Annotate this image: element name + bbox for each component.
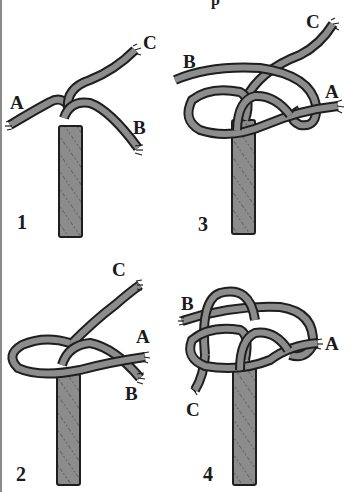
panel-3-art (175, 18, 344, 234)
panel-4-step-number: 4 (203, 464, 213, 484)
panel-3-label-b: B (183, 52, 196, 71)
panel-4-art (178, 292, 323, 485)
panel-2-label-b: B (125, 384, 138, 403)
panel-3-step-number: 3 (198, 214, 208, 234)
knot-diagram-art (0, 0, 349, 492)
panel-2-label-a: A (136, 327, 150, 346)
panel-1-step-number: 1 (17, 212, 27, 232)
panel-2-label-c: C (112, 260, 126, 279)
panel-4-label-b: B (181, 294, 194, 313)
panel-3-label-c: C (306, 12, 320, 31)
standing-rope (233, 365, 256, 485)
panel-4-label-c: C (186, 400, 200, 419)
standing-rope (59, 126, 82, 237)
panel-1-art (5, 44, 143, 237)
panel-4-label-a: A (325, 334, 339, 353)
standing-rope (57, 374, 80, 485)
panel-1-label-c: C (143, 33, 157, 52)
panel-1-label-a: A (10, 93, 24, 112)
panel-1-label-b: B (133, 118, 146, 137)
panel-3-label-a: A (325, 82, 339, 101)
panel-2-step-number: 2 (16, 464, 26, 484)
